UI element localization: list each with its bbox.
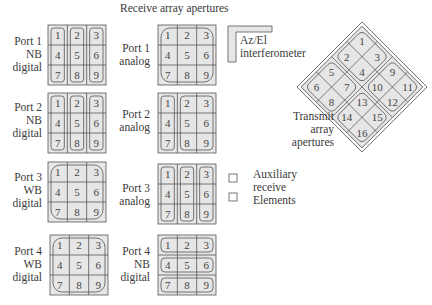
element-number: 2: [184, 239, 190, 251]
transmit-label: Transmit array apertures: [270, 110, 334, 149]
label-line: interferometer: [240, 47, 306, 60]
transmit-element-number: 12: [387, 96, 398, 108]
port1-analog-label: Port 1 analog: [108, 42, 150, 68]
label-line: NB: [0, 48, 42, 61]
port2-analog-label: Port 2 analog: [108, 108, 150, 134]
transmit-element-number: 7: [344, 81, 350, 93]
transmit-element-number: 5: [329, 66, 335, 78]
label-line: digital: [0, 197, 42, 210]
element-number: 2: [184, 97, 190, 109]
transmit-element-number: 15: [372, 111, 384, 123]
element-number: 4: [165, 259, 171, 271]
element-number: 5: [184, 188, 190, 200]
label-line: Port 4: [0, 245, 42, 258]
port1-analog-grid: 123456789: [158, 25, 216, 85]
label-line: analog: [108, 195, 150, 208]
label-line: NB: [108, 258, 150, 271]
element-number: 1: [57, 239, 63, 251]
element-number: 8: [184, 69, 190, 81]
element-number: 4: [55, 49, 61, 61]
element-number: 5: [184, 259, 190, 271]
label-line: receive: [253, 181, 297, 194]
element-number: 3: [94, 29, 100, 41]
label-line: Port 2: [108, 108, 150, 121]
element-number: 8: [184, 208, 190, 220]
port3-wb-digital-label: Port 3 WB digital: [0, 171, 42, 210]
label-line: Port 2: [0, 101, 42, 114]
element-number: 9: [96, 279, 102, 291]
element-number: 6: [204, 117, 210, 129]
element-number: 5: [74, 49, 80, 61]
transmit-element-number: 3: [374, 51, 380, 63]
element-number: 4: [165, 117, 171, 129]
label-line: Az/El: [240, 34, 306, 47]
element-number: 8: [184, 137, 190, 149]
element-number: 1: [55, 166, 61, 178]
element-number: 7: [165, 208, 171, 220]
port3-wb-digital-grid: 123456789: [48, 162, 106, 222]
label-line: Port 3: [0, 171, 42, 184]
element-number: 8: [74, 206, 80, 218]
element-number: 8: [74, 69, 80, 81]
label-line: Auxiliary: [253, 168, 297, 181]
label-line: Port 1: [108, 42, 150, 55]
interferometer-label: Az/El interferometer: [240, 34, 306, 60]
element-number: 5: [74, 117, 80, 129]
element-number: 8: [184, 279, 190, 291]
element-number: 6: [94, 49, 100, 61]
element-number: 1: [165, 239, 171, 251]
element-number: 7: [57, 279, 63, 291]
element-number: 7: [165, 279, 171, 291]
element-number: 9: [204, 279, 210, 291]
element-number: 3: [204, 29, 210, 41]
transmit-element-number: 1: [359, 35, 365, 47]
element-number: 7: [165, 137, 171, 149]
transmit-element-number: 4: [359, 66, 365, 78]
element-number: 1: [165, 168, 171, 180]
port2-nb-digital-grid: 123456789: [48, 93, 106, 153]
element-number: 6: [96, 259, 102, 271]
port3-analog-label: Port 3 analog: [108, 182, 150, 208]
element-number: 7: [55, 137, 61, 149]
port3-analog-grid: 123456789: [158, 164, 216, 224]
element-number: 3: [204, 168, 210, 180]
element-number: 9: [204, 208, 210, 220]
element-number: 1: [165, 29, 171, 41]
element-number: 1: [55, 29, 61, 41]
element-number: 1: [55, 97, 61, 109]
transmit-element-number: 8: [329, 96, 335, 108]
diagram-canvas: 1234567891234567891234567891234567891234…: [0, 0, 432, 305]
label-line: Elements: [253, 194, 297, 207]
auxiliary-label: Auxiliary receive Elements: [253, 168, 297, 207]
element-number: 4: [165, 49, 171, 61]
label-line: digital: [0, 127, 42, 140]
transmit-element-number: 11: [402, 81, 413, 93]
label-line: Port 1: [0, 35, 42, 48]
element-number: 7: [55, 69, 61, 81]
port4-wb-digital-grid: 123456789: [50, 235, 108, 295]
element-number: 6: [94, 186, 100, 198]
label-line: digital: [0, 61, 42, 74]
element-number: 7: [165, 69, 171, 81]
port1-nb-digital-grid: 123456789: [48, 25, 106, 85]
diagram-title: Receive array apertures: [120, 2, 229, 14]
element-number: 5: [74, 186, 80, 198]
element-number: 4: [55, 117, 61, 129]
transmit-element-number: 16: [357, 127, 369, 139]
element-number: 6: [94, 117, 100, 129]
element-number: 4: [57, 259, 63, 271]
element-number: 2: [74, 97, 80, 109]
label-line: Port 4: [108, 245, 150, 258]
element-number: 3: [204, 239, 210, 251]
port4-nb-digital-label: Port 4 NB digital: [108, 245, 150, 284]
transmit-element-number: 10: [372, 81, 384, 93]
port2-nb-digital-label: Port 2 NB digital: [0, 101, 42, 140]
auxiliary-element-icon: [229, 193, 237, 201]
element-number: 9: [94, 206, 100, 218]
label-line: analog: [108, 55, 150, 68]
transmit-element-number: 13: [357, 96, 369, 108]
element-number: 9: [94, 69, 100, 81]
element-number: 4: [55, 186, 61, 198]
element-number: 6: [204, 188, 210, 200]
element-number: 5: [184, 117, 190, 129]
